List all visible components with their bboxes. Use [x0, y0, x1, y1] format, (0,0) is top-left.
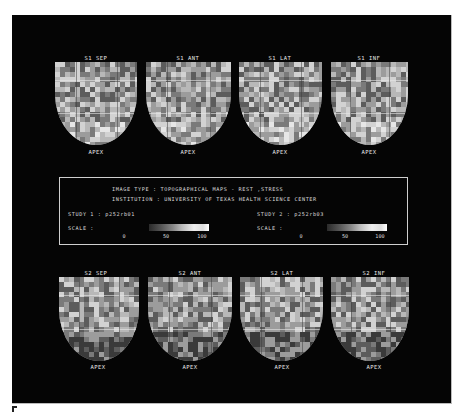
apex-label-s1-sep: APEX: [88, 149, 103, 155]
scale1-tick-0: 0: [122, 233, 125, 239]
apex-label-s1-ant: APEX: [180, 149, 195, 155]
scale1-label: SCALE: [68, 225, 87, 231]
image-type-value: TOPOGRAPHICAL MAPS - REST ,STRESS: [160, 186, 283, 192]
map-title-s2-ant: S2 ANT: [179, 270, 202, 276]
study2-label: STUDY 2: [257, 211, 283, 217]
apex-label-s2-lat: APEX: [274, 364, 289, 370]
figure-screen: S1 SEP S1 ANT S1 LAT S1 INF APEX APEX AP…: [12, 15, 452, 404]
polar-map-s1-inf: [331, 62, 408, 145]
scale1-tick-100: 100: [197, 233, 206, 239]
map-title-s2-sep: S2 SEP: [85, 270, 108, 276]
scale2-tick-0: 0: [299, 233, 302, 239]
polar-map-s2-inf: [331, 277, 409, 361]
image-type-label: IMAGE TYPE: [112, 186, 149, 192]
apex-label-s2-sep: APEX: [90, 364, 105, 370]
institution-line: INSTITUTION : UNIVERSITY OF TEXAS HEALTH…: [112, 196, 317, 202]
study2-line: STUDY 2 : p252rb03: [257, 211, 324, 217]
apex-label-s1-inf: APEX: [361, 149, 376, 155]
apex-label-s2-inf: APEX: [366, 364, 381, 370]
study1-label: STUDY 1: [68, 211, 94, 217]
info-panel: IMAGE TYPE : TOPOGRAPHICAL MAPS - REST ,…: [59, 177, 408, 245]
study1-line: STUDY 1 : p252rb01: [68, 211, 135, 217]
apex-label-s1-lat: APEX: [272, 149, 287, 155]
scale2-label: SCALE: [257, 225, 276, 231]
map-title-s1-lat: S1 LAT: [269, 55, 292, 61]
scale2-label-line: SCALE :: [257, 225, 283, 231]
study2-value: p252rb03: [294, 211, 324, 217]
map-title-s1-ant: S1 ANT: [177, 55, 200, 61]
scale2-tick-50: 50: [342, 233, 348, 239]
panel-letter-e: [12, 406, 17, 412]
map-title-s1-inf: S1 INF: [358, 55, 381, 61]
institution-value: UNIVERSITY OF TEXAS HEALTH SCIENCE CENTE…: [164, 196, 317, 202]
map-title-s2-inf: S2 INF: [363, 270, 386, 276]
study1-value: p252rb01: [105, 211, 135, 217]
scale2-tick-100: 100: [375, 233, 384, 239]
institution-label: INSTITUTION: [112, 196, 153, 202]
map-title-s1-sep: S1 SEP: [85, 55, 108, 61]
image-type-line: IMAGE TYPE : TOPOGRAPHICAL MAPS - REST ,…: [112, 186, 283, 192]
map-title-s2-lat: S2 LAT: [271, 270, 294, 276]
polar-map-s1-lat: [239, 62, 322, 145]
scale1-tick-50: 50: [163, 233, 169, 239]
polar-map-s1-ant: [146, 62, 231, 145]
polar-map-s2-lat: [240, 277, 323, 361]
polar-map-s2-sep: [59, 277, 139, 361]
apex-label-s2-ant: APEX: [182, 364, 197, 370]
grayscale-bar-study1: [149, 224, 209, 231]
scale1-label-line: SCALE :: [68, 225, 94, 231]
grayscale-bar-study2: [327, 224, 387, 231]
polar-map-s2-ant: [148, 277, 232, 361]
polar-map-s1-sep: [55, 62, 137, 145]
